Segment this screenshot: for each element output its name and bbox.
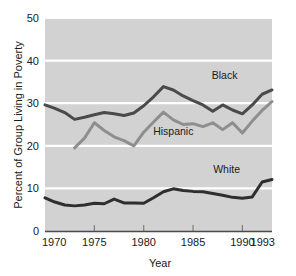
series-label-white: White — [213, 163, 240, 175]
x-axis-title: Year — [149, 257, 172, 269]
x-tick-labels: 197019751980198519901993 — [42, 236, 275, 248]
x-tick-label: 1970 — [42, 236, 66, 248]
y-tick-label: 0 — [33, 225, 39, 237]
x-tick-label: 1985 — [181, 236, 205, 248]
series-label-hispanic: Hispanic — [153, 125, 193, 137]
y-tick-label: 50 — [27, 12, 39, 24]
x-tick-label: 1975 — [82, 236, 106, 248]
y-tick-label: 10 — [27, 182, 39, 194]
series-label-black: Black — [212, 69, 238, 81]
x-tick-label: 1980 — [131, 236, 155, 248]
y-tick-label: 30 — [27, 97, 39, 109]
y-tick-labels: 01020304050 — [27, 12, 39, 237]
chart-canvas: 197019751980198519901993 01020304050 Bla… — [0, 0, 296, 276]
y-axis-title: Percent of Group Living in Poverty — [12, 41, 24, 209]
y-tick-label: 20 — [27, 140, 39, 152]
poverty-line-chart: 197019751980198519901993 01020304050 Bla… — [0, 0, 296, 276]
x-tick-label: 1993 — [251, 236, 275, 248]
y-tick-label: 40 — [27, 55, 39, 67]
